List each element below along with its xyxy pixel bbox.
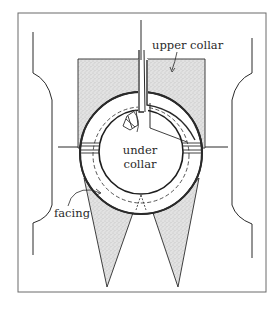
upper-collar-label: upper collar bbox=[152, 40, 223, 52]
left-garment-edge bbox=[33, 32, 52, 255]
under-collar-label-line1: under bbox=[120, 145, 160, 157]
right-garment-edge bbox=[232, 38, 252, 258]
under-collar-label-line2: collar bbox=[120, 159, 160, 171]
facing-label: facing bbox=[54, 208, 90, 220]
